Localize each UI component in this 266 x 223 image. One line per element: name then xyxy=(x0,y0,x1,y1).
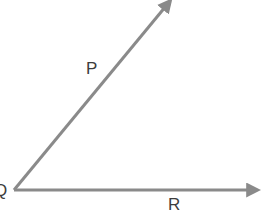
angle-diagram: Q P R xyxy=(0,0,266,223)
ray-label-r: R xyxy=(168,196,180,213)
vertex-label-q: Q xyxy=(0,182,7,199)
ray-qp xyxy=(14,6,166,190)
angle-rays-svg xyxy=(0,0,266,223)
ray-label-p: P xyxy=(86,60,97,77)
